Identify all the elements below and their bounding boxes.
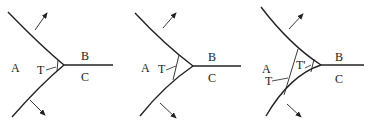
label-grain-b-1: B — [81, 50, 89, 62]
panel-2-lines — [135, 13, 241, 118]
label-grain-a-1: A — [11, 62, 20, 74]
label-phase-t-prime-3: T' — [296, 59, 306, 71]
panel-1-lines — [8, 12, 113, 117]
label-grain-b-2: B — [208, 51, 216, 63]
label-grain-c-3: C — [335, 73, 343, 85]
label-grain-a-2: A — [141, 62, 150, 74]
diagram-lines — [0, 0, 370, 130]
triple-junction-figure: A B C T A B C T A B C T T' — [0, 0, 370, 130]
label-grain-c-2: C — [208, 72, 216, 84]
label-phase-t-2: T — [158, 63, 165, 75]
label-phase-t-1: T — [37, 64, 44, 76]
panel-3-lines — [261, 7, 364, 117]
label-grain-b-3: B — [335, 51, 343, 63]
label-phase-t-3: T — [265, 75, 272, 87]
label-grain-c-1: C — [81, 71, 89, 83]
